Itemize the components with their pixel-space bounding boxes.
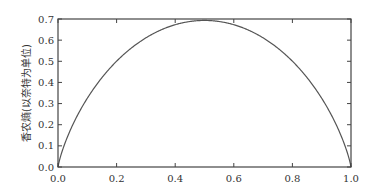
plot-area: 0.00.20.40.60.81.0 0.00.10.20.30.40.50.6…	[38, 14, 359, 185]
x-tick-label: 0.8	[284, 173, 300, 184]
y-tick-label: 0.7	[38, 14, 54, 25]
y-tick-label: 0.6	[38, 35, 54, 46]
y-tick-label: 0.5	[38, 56, 54, 67]
y-axis-label: 香农熵(以奈特为单位)	[20, 44, 32, 142]
y-tick-label: 0.3	[38, 98, 54, 109]
y-tick-label: 0.0	[38, 162, 54, 173]
x-axis-ticks: 0.00.20.40.60.81.0	[50, 19, 359, 184]
y-tick-label: 0.1	[38, 140, 54, 151]
x-tick-label: 0.2	[109, 173, 125, 184]
x-tick-label: 1.0	[343, 173, 359, 184]
entropy-chart: 0.00.20.40.60.81.0 0.00.10.20.30.40.50.6…	[0, 0, 379, 194]
x-tick-label: 0.0	[50, 173, 66, 184]
entropy-curve	[58, 20, 351, 167]
y-axis-ticks: 0.00.10.20.30.40.50.60.7	[38, 14, 351, 173]
x-tick-label: 0.6	[226, 173, 242, 184]
y-tick-label: 0.2	[38, 119, 54, 130]
x-tick-label: 0.4	[167, 173, 183, 184]
y-tick-label: 0.4	[38, 77, 54, 88]
axes-frame	[58, 19, 351, 167]
